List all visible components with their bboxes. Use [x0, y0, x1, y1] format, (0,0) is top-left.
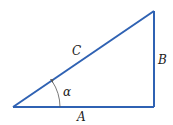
- label-adjacent: A: [76, 110, 86, 124]
- label-hypotenuse: C: [72, 44, 81, 58]
- hypotenuse-line: [13, 11, 154, 107]
- angle-arc: [52, 81, 60, 107]
- label-angle: α: [63, 85, 71, 99]
- right-triangle-diagram: C B A α: [0, 0, 173, 125]
- label-opposite: B: [157, 53, 167, 67]
